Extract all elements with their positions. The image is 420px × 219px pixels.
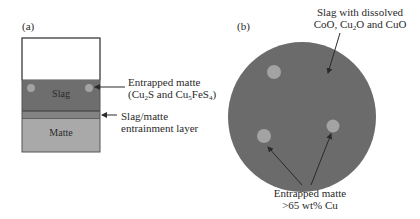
entrainment-layer [22, 111, 100, 119]
matte-droplet [267, 65, 281, 79]
matte-droplet [327, 120, 340, 133]
panel-a-label: (a) [22, 20, 34, 32]
empty-headspace [22, 38, 100, 80]
entrapped-matte-cu-label: Entrapped matte >65 wt% Cu [250, 187, 370, 211]
slag-sample [228, 42, 376, 192]
panel-b-label: (b) [237, 20, 250, 32]
slag-layer-label: Slag [22, 88, 100, 99]
matte-layer-label: Matte [22, 127, 100, 138]
entrainment-layer-label: Slag/matte entrainment layer [121, 110, 198, 134]
slag-dissolved-label: Slag with dissolved CoO, Cu2O and CuO [300, 6, 420, 30]
slag-circle [228, 42, 376, 192]
entrapped-matte-label: Entrapped matte (Cu2S and Cu5FeS4) [128, 76, 216, 100]
matte-droplet [257, 129, 271, 143]
